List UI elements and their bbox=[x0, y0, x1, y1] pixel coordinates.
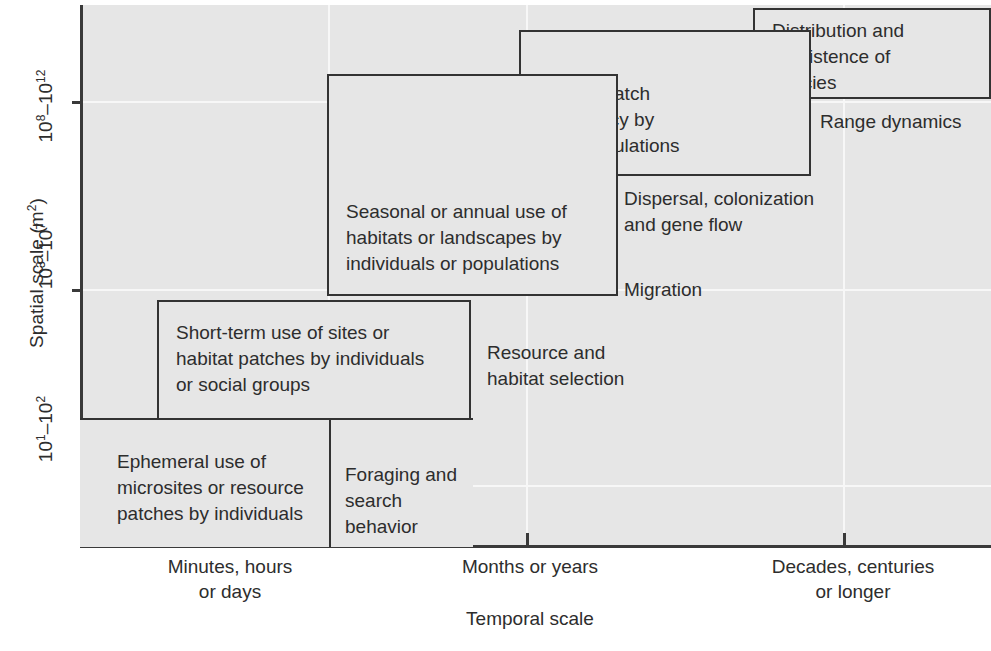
box-short-term-use-label: Short-term use of sites or habitat patch… bbox=[176, 320, 424, 398]
x-tick-label-right-line1: Decades, centuries bbox=[728, 554, 978, 579]
x-axis-title: Temporal scale bbox=[380, 608, 680, 630]
annotation-resource-habitat-selection: Resource and habitat selection bbox=[487, 340, 624, 392]
annotation-range-dynamics: Range dynamics bbox=[820, 109, 962, 135]
x-tick-label-left-line1: Minutes, hours bbox=[105, 554, 355, 579]
box-short-term-use: Short-term use of sites or habitat patch… bbox=[157, 300, 471, 420]
box-ephemeral-use-label: Ephemeral use of microsites or resource … bbox=[117, 449, 304, 527]
x-tick-label-middle: Months or years bbox=[405, 554, 655, 579]
x-tick-label-left-line2: or days bbox=[105, 579, 355, 604]
box-foraging-search-label: Foraging and search behavior bbox=[345, 462, 473, 540]
x-tick-mark-right bbox=[843, 533, 846, 546]
x-tick-label-right: Decades, centuries or longer bbox=[728, 554, 978, 604]
x-tick-label-left: Minutes, hours or days bbox=[105, 554, 355, 604]
x-tick-label-right-line2: or longer bbox=[728, 579, 978, 604]
box-foraging-search: Foraging and search behavior bbox=[329, 418, 473, 547]
annotation-migration: Migration bbox=[624, 277, 702, 303]
x-tick-mark-middle bbox=[526, 533, 529, 546]
x-tick-label-middle-line1: Months or years bbox=[405, 554, 655, 579]
box-seasonal-annual-use-label: Seasonal or annual use of habitats or la… bbox=[346, 199, 567, 277]
box-ephemeral-use: Ephemeral use of microsites or resource … bbox=[80, 418, 331, 547]
scale-diagram-figure: Distribution and persistence of species … bbox=[0, 0, 991, 651]
y-axis-title-text: Spatial scale (m2) bbox=[26, 198, 47, 348]
annotation-dispersal-colonization: Dispersal, colonization and gene flow bbox=[624, 186, 814, 238]
y-axis-title: Spatial scale (m2) bbox=[26, 153, 48, 393]
y-tick-mark-upper bbox=[72, 101, 83, 104]
box-seasonal-annual-use: Seasonal or annual use of habitats or la… bbox=[327, 74, 618, 296]
y-tick-mark-middle bbox=[72, 289, 83, 292]
